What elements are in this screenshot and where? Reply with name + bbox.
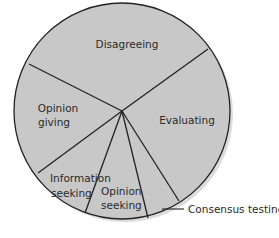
- label-opinion-giving-line1: Opinion: [38, 102, 79, 114]
- label-opinion-giving-line2: giving: [38, 116, 70, 128]
- label-disagreeing: Disagreeing: [96, 38, 159, 50]
- label-opinion-seeking-line1: Opinion: [101, 185, 142, 197]
- label-information-seeking-line2: seeking: [51, 187, 92, 199]
- label-evaluating: Evaluating: [159, 114, 215, 126]
- label-information-seeking-line1: Information: [50, 172, 111, 184]
- label-consensus-testing: Consensus testing: [188, 203, 279, 215]
- label-opinion-seeking-line2: seeking: [101, 199, 142, 211]
- pie-chart: Disagreeing Evaluating Opinion giving In…: [0, 0, 279, 238]
